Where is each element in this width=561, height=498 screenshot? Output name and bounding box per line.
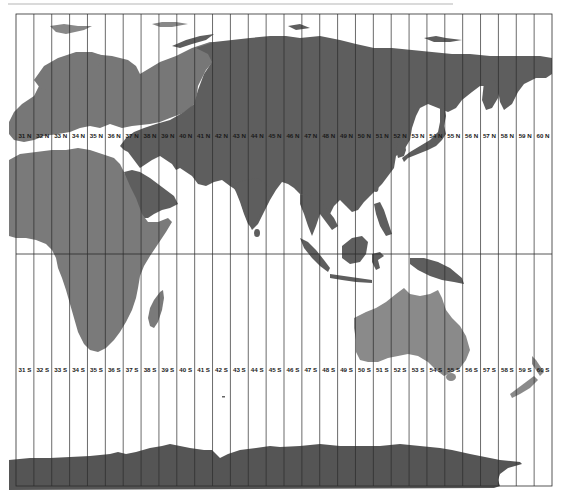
south-zone-label: 57 S — [483, 366, 496, 373]
land-new-siberian-islands — [424, 36, 462, 42]
south-zone-label: 51 S — [376, 366, 389, 373]
south-zone-label: 50 S — [358, 366, 371, 373]
north-zone-label: 40 N — [179, 132, 193, 139]
north-zone-label: 35 N — [90, 132, 104, 139]
land-sri-lanka — [254, 229, 260, 237]
north-zone-label: 39 N — [161, 132, 175, 139]
north-zone-label: 57 N — [483, 132, 497, 139]
south-zone-label: 59 S — [519, 366, 532, 373]
north-zone-label: 55 N — [447, 132, 461, 139]
land-borneo — [342, 236, 368, 264]
utm-zone-map: 31 N32 N33 N34 N35 N36 N37 N38 N39 N40 N… — [0, 0, 561, 498]
land-java — [330, 274, 372, 283]
land-kamchatka — [482, 80, 500, 110]
north-zone-label: 54 N — [429, 132, 443, 139]
north-zone-label: 42 N — [215, 132, 229, 139]
north-zone-label: 33 N — [54, 132, 68, 139]
land-tasmania — [446, 373, 456, 381]
north-zone-label: 32 N — [36, 132, 50, 139]
north-zone-label: 37 N — [126, 132, 140, 139]
south-zone-label: 33 S — [54, 366, 67, 373]
land-india — [232, 178, 270, 228]
north-zone-label: 58 N — [501, 132, 515, 139]
north-zone-label: 38 N — [143, 132, 157, 139]
land-new-guinea — [410, 258, 464, 284]
south-zone-label: 36 S — [108, 366, 121, 373]
south-zone-label: 52 S — [394, 366, 407, 373]
north-zone-label: 34 N — [72, 132, 86, 139]
north-zone-label: 45 N — [269, 132, 283, 139]
south-zone-label: 45 S — [269, 366, 282, 373]
south-zone-label: 32 S — [36, 366, 49, 373]
south-zone-label: 46 S — [287, 366, 300, 373]
south-zone-label: 47 S — [304, 366, 317, 373]
south-zone-label: 38 S — [144, 366, 157, 373]
south-zone-label: 58 S — [501, 366, 514, 373]
north-zone-label: 56 N — [465, 132, 479, 139]
north-zone-label: 31 N — [18, 132, 32, 139]
south-zone-label: 53 S — [412, 366, 425, 373]
land-sulawesi — [372, 252, 384, 270]
south-zone-label: 40 S — [179, 366, 192, 373]
south-zone-label: 39 S — [161, 366, 174, 373]
south-zone-label: 55 S — [447, 366, 460, 373]
south-zone-label: 31 S — [19, 366, 32, 373]
north-zone-label: 50 N — [358, 132, 372, 139]
south-zone-label: 54 S — [429, 366, 442, 373]
land-franz-josef — [152, 22, 188, 27]
north-zone-label: 53 N — [411, 132, 425, 139]
south-zone-label: 34 S — [72, 366, 85, 373]
north-zone-label: 49 N — [340, 132, 354, 139]
land-taiwan — [374, 184, 379, 192]
south-zone-label: 43 S — [233, 366, 246, 373]
south-zone-label: 41 S — [197, 366, 210, 373]
land-svalbard — [50, 24, 92, 34]
south-zone-label: 37 S — [126, 366, 139, 373]
north-zone-label: 44 N — [251, 132, 265, 139]
north-zone-label: 60 N — [537, 132, 551, 139]
south-zone-label: 49 S — [340, 366, 353, 373]
south-zone-label: 35 S — [90, 366, 103, 373]
north-zone-label: 47 N — [304, 132, 318, 139]
south-zone-label: 44 S — [251, 366, 264, 373]
north-zone-label: 41 N — [197, 132, 211, 139]
north-zone-label: 43 N — [233, 132, 247, 139]
north-zone-label: 52 N — [394, 132, 408, 139]
south-zone-label: 56 S — [465, 366, 478, 373]
land-madagascar — [148, 290, 164, 328]
north-zone-label: 51 N — [376, 132, 390, 139]
land-severnaya-zemlya — [288, 24, 310, 30]
north-zone-label: 59 N — [519, 132, 533, 139]
land-small-island — [222, 396, 225, 398]
north-zone-label: 48 N — [322, 132, 336, 139]
landmasses — [9, 22, 552, 490]
north-zone-label: 36 N — [108, 132, 122, 139]
south-zone-label: 60 S — [537, 366, 550, 373]
north-zone-label: 46 N — [286, 132, 300, 139]
south-zone-label: 48 S — [322, 366, 335, 373]
land-sumatra — [300, 238, 330, 272]
south-zone-label: 42 S — [215, 366, 228, 373]
land-australia — [354, 288, 470, 376]
land-philippines — [374, 202, 392, 236]
